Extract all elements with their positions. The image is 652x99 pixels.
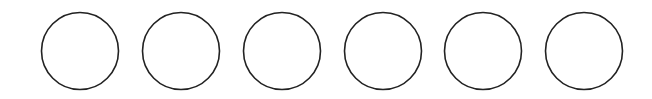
circle-4-outline: [345, 13, 422, 90]
circle-1-outline: [42, 13, 119, 90]
circle-6-outline: [546, 13, 623, 90]
circle-3-outline: [244, 13, 321, 90]
circle-5-outline: [445, 13, 522, 90]
circle-2-outline: [143, 13, 220, 90]
circles-drawing: [0, 0, 652, 99]
circle-row: [0, 0, 652, 99]
